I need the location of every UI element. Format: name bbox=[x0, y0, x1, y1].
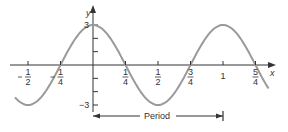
svg-text:3: 3 bbox=[188, 67, 193, 77]
svg-text:4: 4 bbox=[253, 77, 258, 87]
period-label: Period bbox=[144, 111, 170, 121]
x-axis-label: x bbox=[269, 68, 275, 78]
svg-text:1: 1 bbox=[123, 67, 128, 77]
svg-text:4: 4 bbox=[58, 77, 63, 87]
svg-text:1: 1 bbox=[58, 67, 63, 77]
x-tick-label: 14 bbox=[51, 67, 64, 87]
x-tick-label: 12 bbox=[155, 67, 161, 87]
y-max-label: 3 bbox=[84, 20, 89, 30]
x-tick-label: 1 bbox=[220, 71, 225, 81]
svg-text:1: 1 bbox=[25, 67, 30, 77]
plot-area: 1214141234154 y x 3 −3 Period bbox=[0, 0, 288, 132]
svg-text:5: 5 bbox=[253, 67, 258, 77]
x-tick-label: 54 bbox=[253, 67, 259, 87]
x-tick-label: 14 bbox=[123, 67, 129, 87]
y-min-label: −3 bbox=[79, 100, 89, 110]
y-axis-label: y bbox=[85, 8, 91, 18]
svg-text:1: 1 bbox=[220, 71, 225, 81]
svg-text:4: 4 bbox=[188, 77, 193, 87]
svg-text:4: 4 bbox=[123, 77, 128, 87]
svg-text:1: 1 bbox=[155, 67, 160, 77]
x-tick-label: 34 bbox=[188, 67, 194, 87]
x-tick-label: 12 bbox=[18, 67, 31, 87]
chart: 1214141234154 y x 3 −3 Period bbox=[0, 0, 288, 132]
svg-text:2: 2 bbox=[25, 77, 30, 87]
svg-text:2: 2 bbox=[155, 77, 160, 87]
